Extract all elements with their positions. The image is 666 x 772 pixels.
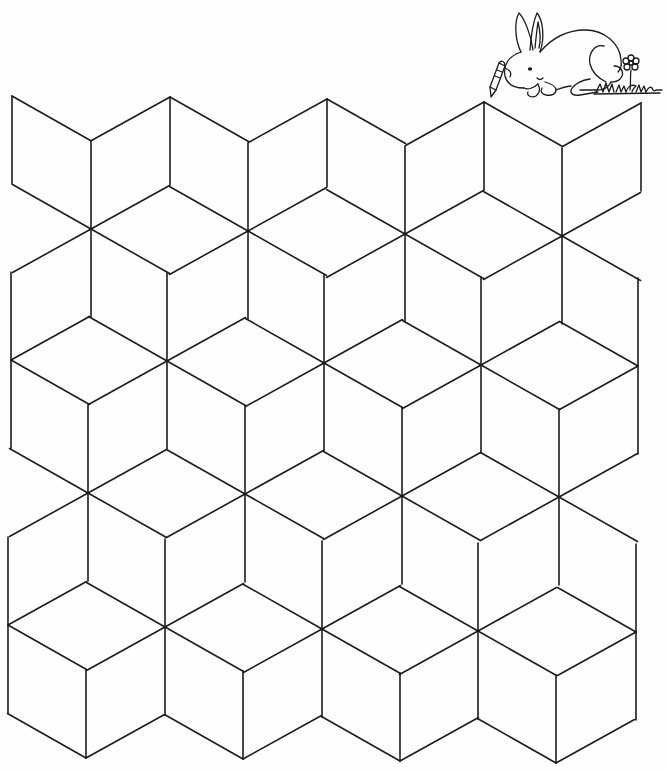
pattern-edge bbox=[246, 363, 325, 407]
pattern-edge bbox=[86, 715, 165, 759]
pattern-edge bbox=[406, 102, 485, 146]
pattern-edge bbox=[562, 236, 641, 281]
flower-icon bbox=[623, 55, 639, 90]
pattern-edge bbox=[324, 363, 403, 408]
pattern-edge bbox=[12, 96, 91, 141]
pattern-edge bbox=[13, 229, 92, 273]
pattern-edge bbox=[478, 588, 557, 632]
pattern-edge bbox=[91, 229, 170, 274]
pattern-edge bbox=[556, 720, 635, 764]
rabbit-illustration bbox=[480, 4, 666, 104]
pattern-edge bbox=[91, 186, 170, 230]
pattern-edge bbox=[327, 99, 406, 144]
pattern-edge bbox=[13, 185, 92, 230]
rabbit-eye-icon bbox=[528, 67, 532, 71]
pattern-edge bbox=[245, 451, 324, 495]
coloring-page: Tumbling blocks coloring pattern bbox=[0, 0, 666, 772]
pattern-edge bbox=[88, 450, 167, 494]
pattern-edge bbox=[481, 365, 560, 410]
pattern-edge bbox=[402, 453, 481, 497]
pattern-edge bbox=[403, 365, 482, 409]
pattern-edge bbox=[559, 497, 638, 542]
pattern-edge bbox=[327, 234, 406, 278]
pattern-edge bbox=[563, 103, 642, 147]
pattern-edge bbox=[478, 719, 557, 764]
pattern-edge bbox=[322, 586, 401, 630]
pattern-edge bbox=[165, 584, 244, 628]
pattern-edge bbox=[11, 360, 90, 405]
pattern-edge bbox=[10, 449, 89, 494]
rabbit-ears-icon bbox=[516, 13, 543, 52]
pattern-edge bbox=[405, 234, 484, 279]
pattern-edge bbox=[248, 188, 327, 232]
pattern-edge bbox=[243, 716, 322, 760]
pattern-edge bbox=[558, 588, 637, 633]
pattern-edge bbox=[244, 585, 323, 630]
pattern-edge bbox=[165, 627, 244, 672]
pattern-edge bbox=[324, 320, 403, 364]
pattern-edge bbox=[8, 582, 87, 626]
pattern-edge bbox=[87, 583, 166, 628]
pattern-edge bbox=[167, 494, 246, 538]
pattern-edge bbox=[8, 714, 87, 759]
pattern-edge bbox=[400, 718, 479, 762]
pattern-edge bbox=[481, 497, 560, 541]
pattern-edge bbox=[167, 318, 246, 362]
pattern-edge bbox=[246, 319, 325, 364]
tumbling-blocks-pattern bbox=[0, 0, 666, 772]
pattern-edge bbox=[327, 190, 406, 235]
pattern-edge bbox=[170, 187, 249, 232]
pattern-edge bbox=[248, 231, 327, 276]
pattern-edge bbox=[10, 493, 89, 537]
pattern-edge bbox=[481, 322, 560, 366]
pattern-edge bbox=[89, 317, 168, 362]
pattern-edge bbox=[249, 99, 328, 143]
pattern-edge bbox=[92, 97, 171, 141]
pattern-edge bbox=[324, 452, 403, 497]
pattern-edge bbox=[170, 97, 249, 142]
pattern-edge bbox=[558, 632, 637, 676]
pattern-edge bbox=[322, 629, 401, 674]
pattern-edge bbox=[170, 231, 249, 275]
pattern-edge bbox=[167, 450, 246, 495]
pattern-edge bbox=[244, 629, 323, 673]
pattern-edge bbox=[165, 715, 244, 760]
pattern-edge bbox=[245, 494, 324, 539]
pattern-edge bbox=[403, 321, 482, 366]
pattern-edge bbox=[322, 717, 401, 762]
pattern-edge bbox=[405, 191, 484, 235]
crayon-icon bbox=[490, 61, 511, 97]
pattern-edge bbox=[560, 322, 639, 367]
pattern-lines bbox=[8, 96, 642, 763]
pattern-edge bbox=[481, 453, 560, 498]
pattern-edge bbox=[11, 317, 90, 361]
pattern-edge bbox=[400, 631, 479, 675]
pattern-edge bbox=[87, 627, 166, 671]
pattern-edge bbox=[562, 193, 641, 237]
pattern-edge bbox=[478, 631, 557, 676]
pattern-edge bbox=[402, 496, 481, 541]
pattern-edge bbox=[89, 361, 168, 405]
pattern-edge bbox=[88, 493, 167, 538]
pattern-edge bbox=[484, 102, 563, 147]
pattern-edge bbox=[167, 361, 246, 406]
pattern-edge bbox=[324, 496, 403, 540]
rabbit-mouth-icon bbox=[537, 78, 543, 80]
grass-icon bbox=[594, 83, 662, 94]
pattern-edge bbox=[8, 625, 87, 670]
pattern-edge bbox=[484, 192, 563, 237]
pattern-edge bbox=[560, 366, 639, 410]
pattern-edge bbox=[400, 587, 479, 632]
pattern-edge bbox=[559, 454, 638, 498]
pattern-edge bbox=[484, 236, 563, 280]
